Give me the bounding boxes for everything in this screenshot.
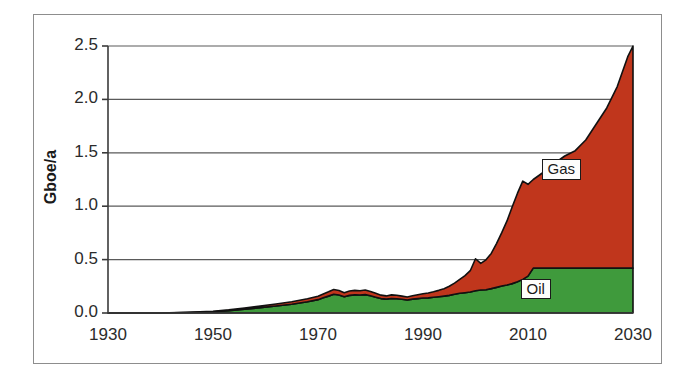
series-label-oil: Oil — [521, 279, 551, 300]
x-tick-label: 1950 — [173, 325, 253, 345]
y-tick-label: 1.0 — [46, 195, 98, 215]
y-tick-label: 0.5 — [46, 249, 98, 269]
axis-ticks — [102, 46, 108, 313]
y-tick-label: 1.5 — [46, 142, 98, 162]
x-tick-label: 2010 — [488, 325, 568, 345]
x-tick-label: 1970 — [278, 325, 358, 345]
series-label-gas: Gas — [542, 159, 582, 180]
x-tick-label: 1930 — [68, 325, 148, 345]
area-oil — [108, 268, 633, 313]
y-tick-label: 0.0 — [46, 302, 98, 322]
y-tick-label: 2.5 — [46, 35, 98, 55]
y-tick-label: 2.0 — [46, 88, 98, 108]
x-tick-label: 2030 — [593, 325, 673, 345]
area-chart-canvas — [0, 0, 687, 376]
figure-root: Gboe/a 0.00.51.01.52.02.5 19301950197019… — [0, 0, 687, 376]
x-tick-label: 1990 — [383, 325, 463, 345]
